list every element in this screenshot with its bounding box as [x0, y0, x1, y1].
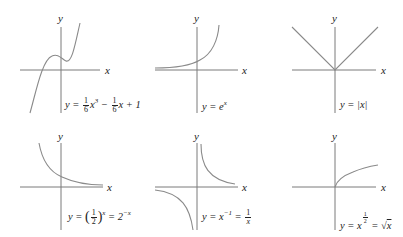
x-axis-label: x	[107, 182, 112, 193]
exponent: −x	[123, 209, 131, 217]
denominator: 2	[91, 218, 97, 226]
eq-text: y =	[65, 99, 82, 110]
eq-text: y = |x|	[340, 99, 367, 110]
eq-text: x + 1	[119, 99, 141, 110]
equation-half-pow: y = (12)x = 2−x	[68, 209, 131, 226]
equation-abs: y = |x|	[340, 100, 367, 111]
exponent: x	[224, 99, 227, 107]
denominator: 2	[363, 218, 368, 224]
equation-exp: y = ex	[202, 100, 227, 113]
eq-text: =	[232, 211, 244, 222]
y-axis-label: y	[332, 131, 337, 142]
eq-text: = √	[369, 220, 387, 231]
function-graphs	[0, 0, 403, 237]
x-axis-label: x	[381, 182, 386, 193]
fraction-exponent: 12	[363, 211, 368, 224]
y-axis-label: y	[194, 131, 199, 142]
x-axis-label: x	[381, 65, 386, 76]
equation-reciprocal: y = x−1 = 1x	[202, 209, 252, 226]
fraction: 16	[112, 97, 118, 114]
eq-text: y = x	[340, 220, 362, 231]
x-axis-label: x	[242, 182, 247, 193]
x-axis-label: x	[105, 65, 110, 76]
denominator: 6	[83, 106, 89, 114]
y-axis-label: y	[58, 13, 63, 24]
equation-sqrt: y = x12 = √x	[340, 211, 391, 232]
eq-text: y = e	[202, 101, 224, 112]
y-axis-label: y	[58, 131, 63, 142]
exponent: −1	[224, 209, 232, 217]
eq-text: y =	[68, 211, 85, 222]
paren: (	[85, 209, 90, 224]
fraction: 16	[83, 97, 89, 114]
reciprocal-curve-positive	[201, 144, 235, 184]
y-axis-label: y	[194, 13, 199, 24]
eq-text: = 2	[105, 211, 123, 222]
exp-curve	[155, 25, 219, 68]
numerator: 1	[363, 211, 368, 218]
y-axis-label: y	[332, 13, 337, 24]
radicand: x	[387, 220, 392, 231]
denominator: x	[245, 218, 251, 226]
fraction: 12	[91, 209, 97, 226]
eq-text: −	[98, 99, 110, 110]
denominator: 6	[112, 106, 118, 114]
fraction: 1x	[245, 209, 251, 226]
equation-cubic: y = 16x3 − 16x + 1	[65, 97, 141, 114]
x-axis-label: x	[242, 65, 247, 76]
sqrt-curve	[335, 165, 378, 187]
reciprocal-curve-negative	[155, 190, 193, 230]
half-pow-curve	[39, 143, 103, 185]
eq-text: y = x	[202, 211, 224, 222]
